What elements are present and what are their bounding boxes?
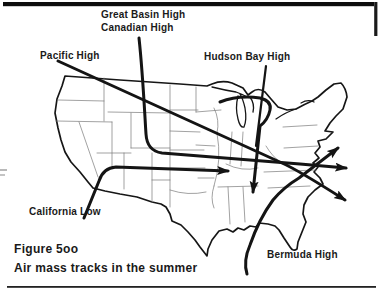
scan-smudge	[0, 169, 7, 171]
bottom-border-rule	[7, 286, 376, 288]
scan-smudge	[0, 174, 5, 176]
us-outline	[55, 76, 347, 256]
label-pacific-high: Pacific High	[40, 50, 100, 63]
label-canadian-high: Canadian High	[101, 22, 174, 35]
scanned-figure-page: Great Basin High Canadian High Pacific H…	[0, 0, 378, 297]
page-edge-artifact	[374, 2, 377, 36]
label-hudson-bay-high: Hudson Bay High	[204, 51, 290, 64]
top-border-rule	[3, 2, 374, 6]
label-bermuda-high: Bermuda High	[267, 249, 338, 262]
figure-number: Figure 5oo	[14, 242, 78, 256]
label-great-basin-high: Great Basin High	[101, 9, 185, 22]
label-california-low: California Low	[29, 206, 101, 219]
figure-caption: Air mass tracks in the summer	[14, 261, 197, 275]
